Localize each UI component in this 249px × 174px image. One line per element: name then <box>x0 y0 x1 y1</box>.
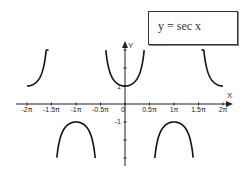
y-tick-label: -1 <box>115 118 121 125</box>
x-tick-label: -2π <box>21 106 32 113</box>
legend-text: y = sec x <box>158 19 201 34</box>
x-tick-label: 1.5π <box>191 106 206 113</box>
x-axis-label: X <box>227 91 233 100</box>
y-axis-label: Y <box>128 41 134 50</box>
sec-branch <box>27 50 49 86</box>
x-tick-label: -1π <box>70 106 81 113</box>
x-tick-label: 2π <box>219 106 228 113</box>
x-tick-label: -1.5π <box>43 106 60 113</box>
sec-branch <box>57 122 95 158</box>
sec-branch <box>155 122 193 158</box>
legend-box: y = sec x <box>148 11 238 45</box>
x-tick-label: 0.5π <box>142 106 157 113</box>
x-tick-label: 0 <box>121 106 125 113</box>
x-tick-label: -0.5π <box>92 106 109 113</box>
x-tick-label: 1π <box>170 106 179 113</box>
sec-branch <box>201 50 223 86</box>
